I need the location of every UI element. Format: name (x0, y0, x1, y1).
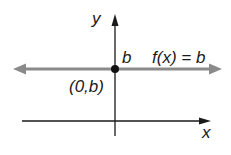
left-arrow-icon (13, 64, 26, 75)
diagram-canvas: y x b f(x) = b (0,b) (0, 0, 231, 155)
function-label: f(x) = b (152, 49, 205, 66)
point-label: (0,b) (69, 78, 104, 95)
y-axis-arrow-icon (112, 14, 119, 26)
y-axis-label: y (92, 10, 101, 27)
y-axis (112, 14, 119, 136)
y-intercept-point (111, 65, 119, 73)
intercept-label: b (122, 49, 131, 66)
x-axis (22, 118, 211, 125)
right-arrow-icon (209, 64, 222, 75)
x-axis-label: x (202, 124, 211, 141)
graph-svg (0, 0, 231, 155)
